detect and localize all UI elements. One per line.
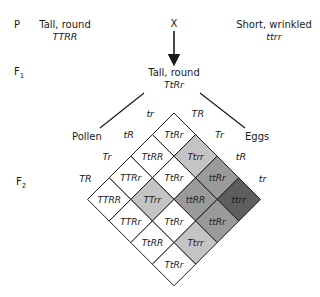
egg-gamete-label: TR	[192, 108, 204, 119]
egg-gamete-label: Tr	[215, 129, 225, 140]
pollen-gamete-label: tr	[146, 108, 155, 119]
punnett-cell-genotype: TTRR	[97, 195, 121, 205]
punnett-cell-genotype: Ttrr	[187, 152, 205, 162]
punnett-cell-genotype: TTRr	[120, 173, 142, 183]
punnett-cell-genotype: ttRR	[186, 195, 206, 205]
punnett-diagram: TtRrTtrrttRrttrrTtRRTtRrttRRttRrTTRrTTrr…	[0, 0, 320, 297]
punnett-cell-genotype: ttrr	[232, 195, 248, 205]
punnett-cell-genotype: TTrr	[144, 195, 163, 205]
egg-gamete-label: tR	[236, 151, 246, 162]
eggs-branch-line	[200, 93, 245, 128]
punnett-cell-genotype: ttRr	[209, 217, 227, 227]
punnett-cell-genotype: TtRr	[165, 173, 185, 183]
punnett-cell-genotype: TtRR	[142, 238, 164, 248]
punnett-cell-genotype: TtRR	[142, 152, 164, 162]
punnett-cell-genotype: ttRr	[209, 173, 227, 183]
pollen-branch-line	[100, 93, 144, 128]
punnett-cell-genotype: Ttrr	[187, 238, 205, 248]
punnett-cell-genotype: TTRr	[120, 217, 142, 227]
punnett-cell-genotype: TtRr	[165, 260, 185, 270]
punnett-grid: TtRrTtrrttRrttrrTtRRTtRrttRRttRrTTRrTTrr…	[88, 113, 261, 286]
punnett-cell-genotype: TtRr	[165, 130, 185, 140]
punnett-cell-genotype: TtRr	[165, 217, 185, 227]
egg-gamete-label: tr	[259, 173, 268, 184]
pollen-gamete-label: Tr	[103, 151, 113, 162]
pollen-gamete-label: tR	[123, 129, 133, 140]
pollen-gamete-label: TR	[79, 173, 91, 184]
